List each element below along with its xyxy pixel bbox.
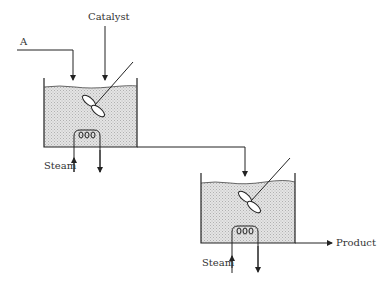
product-label: Product	[336, 237, 376, 248]
steam-1-label: Steam	[44, 160, 76, 171]
reactor-2-liquid	[201, 181, 295, 244]
process-diagram: A Catalyst Steam Steam Product	[0, 0, 382, 291]
catalyst-label: Catalyst	[88, 11, 130, 22]
reactor-2	[201, 158, 295, 273]
feed-a-line	[17, 50, 73, 80]
diagram-graphics	[0, 0, 382, 291]
transfer-line	[137, 147, 245, 176]
reactor-1-liquid	[44, 86, 137, 147]
steam-2-label: Steam	[202, 257, 234, 268]
reactor-1	[44, 62, 137, 172]
feed-a-label: A	[20, 36, 27, 47]
